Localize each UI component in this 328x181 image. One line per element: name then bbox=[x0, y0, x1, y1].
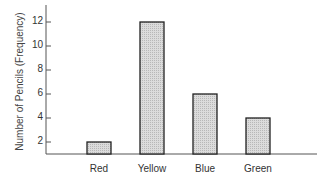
bar-blue bbox=[193, 94, 217, 154]
x-tick-label: Red bbox=[74, 163, 124, 174]
x-tick-label: Green bbox=[233, 163, 283, 174]
bar-green bbox=[246, 118, 270, 154]
x-tick-label: Yellow bbox=[127, 163, 177, 174]
y-tick-label: 8 bbox=[27, 63, 43, 74]
plot-area bbox=[0, 0, 328, 181]
y-tick-label: 4 bbox=[27, 111, 43, 122]
bar-chart: Number of Pencils (Frequency) 24681012 R… bbox=[0, 0, 328, 181]
y-tick-label: 2 bbox=[27, 135, 43, 146]
y-tick-label: 10 bbox=[27, 39, 43, 50]
bar-red bbox=[87, 142, 111, 154]
x-tick-label: Blue bbox=[180, 163, 230, 174]
y-tick-label: 6 bbox=[27, 87, 43, 98]
y-tick-label: 12 bbox=[27, 15, 43, 26]
bar-yellow bbox=[140, 22, 164, 154]
